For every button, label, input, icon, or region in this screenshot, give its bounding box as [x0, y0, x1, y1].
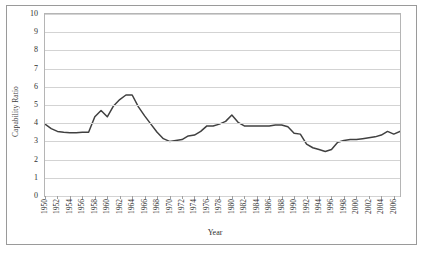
x-tick-label: 1992: [303, 199, 311, 214]
x-tick-label: 2004: [377, 199, 385, 214]
x-tick-label: 1950: [41, 199, 49, 214]
x-tickmark: [344, 196, 345, 199]
x-tickmark: [244, 196, 245, 199]
x-tick-label: 2006: [390, 199, 398, 214]
x-tick-label: 1978: [215, 199, 223, 214]
x-tickmark: [95, 196, 96, 199]
x-tick-label: 1984: [253, 199, 261, 214]
x-tickmark: [170, 196, 171, 199]
x-tickmark: [269, 196, 270, 199]
x-tick-label: 1986: [265, 199, 273, 214]
x-tick-label: 1952: [53, 199, 61, 214]
x-tickmark: [157, 196, 158, 199]
y-tick-label: 4: [16, 118, 38, 128]
x-tick-label: 1982: [240, 199, 248, 214]
x-tickmark: [356, 196, 357, 199]
x-tick-label: 2002: [365, 199, 373, 214]
y-tick-label: 5: [16, 100, 38, 110]
x-tickmark: [331, 196, 332, 199]
x-tick-label: 1968: [153, 199, 161, 214]
y-tick-label: 8: [16, 45, 38, 55]
x-tickmark: [232, 196, 233, 199]
x-tickmark: [120, 196, 121, 199]
x-tick-label: 1960: [103, 199, 111, 214]
x-tickmark: [207, 196, 208, 199]
x-tickmark: [294, 196, 295, 199]
x-tickmark: [307, 196, 308, 199]
x-tickmark: [107, 196, 108, 199]
x-tickmark: [182, 196, 183, 199]
y-tick-label: 1: [16, 173, 38, 183]
x-tickmark: [369, 196, 370, 199]
x-tick-label: 1974: [190, 199, 198, 214]
x-tickmark: [394, 196, 395, 199]
x-tickmark: [82, 196, 83, 199]
x-tick-label: 1990: [290, 199, 298, 214]
x-tickmark: [381, 196, 382, 199]
x-tickmark: [282, 196, 283, 199]
x-tick-label: 1980: [228, 199, 236, 214]
x-tickmark: [45, 196, 46, 199]
x-tickmark: [319, 196, 320, 199]
y-tick-label: 3: [16, 136, 38, 146]
x-axis-title: Year: [0, 228, 430, 237]
chart-figure: Capability Ratio 012345678910 1950195219…: [0, 0, 430, 254]
x-tick-label: 2000: [352, 199, 360, 214]
x-tick-label: 1970: [166, 199, 174, 214]
x-tick-label: 1972: [178, 199, 186, 214]
y-tick-label: 10: [16, 9, 38, 19]
x-tickmark: [70, 196, 71, 199]
x-tick-label: 1956: [78, 199, 86, 214]
x-tick-label: 1962: [116, 199, 124, 214]
x-tick-label: 1998: [340, 199, 348, 214]
y-tick-label: 7: [16, 64, 38, 74]
x-tick-label: 1964: [128, 199, 136, 214]
x-tick-label: 1954: [66, 199, 74, 214]
y-tick-label: 0: [16, 191, 38, 201]
x-tickmark: [57, 196, 58, 199]
y-tick-label: 9: [16, 27, 38, 37]
x-tickmark: [145, 196, 146, 199]
x-tickmark: [132, 196, 133, 199]
x-tick-label: 1988: [278, 199, 286, 214]
x-tickmark: [194, 196, 195, 199]
x-tick-label: 1976: [203, 199, 211, 214]
x-tick-label: 1996: [327, 199, 335, 214]
x-tickmark: [219, 196, 220, 199]
x-tick-label: 1958: [91, 199, 99, 214]
x-tickmark: [257, 196, 258, 199]
y-tick-label: 2: [16, 155, 38, 165]
y-tick-label: 6: [16, 82, 38, 92]
x-tick-label: 1966: [141, 199, 149, 214]
y-tick-labels: 012345678910: [0, 0, 430, 254]
x-tick-label: 1994: [315, 199, 323, 214]
